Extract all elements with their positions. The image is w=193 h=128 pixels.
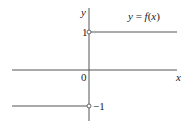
origin-label: 0 <box>81 71 87 83</box>
y-axis-label: y <box>80 6 86 18</box>
open-circle-upper <box>87 30 91 34</box>
open-circle-lower <box>87 104 91 108</box>
step-function-graph: y x 0 1 −1 y = f(x) <box>0 0 193 128</box>
tick-label-one: 1 <box>82 26 88 38</box>
function-label-close: ) <box>156 10 160 23</box>
tick-label-neg-one: −1 <box>93 100 105 112</box>
function-label-eq: = <box>133 10 145 22</box>
x-axis-label: x <box>175 71 181 83</box>
function-label: y = f(x) <box>127 10 160 23</box>
